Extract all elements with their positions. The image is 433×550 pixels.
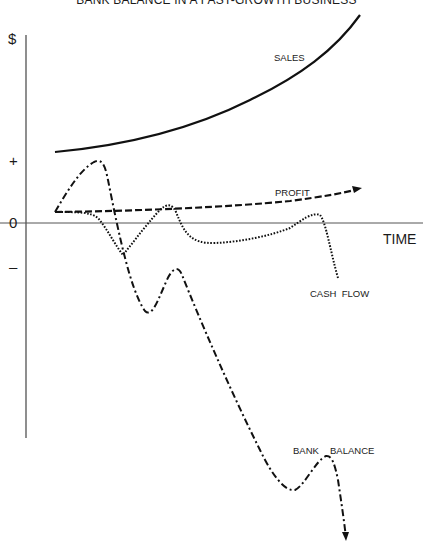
bank-label: BANK (293, 445, 319, 456)
bank-balance-line (55, 161, 346, 538)
y-tick-minus: – (9, 258, 17, 275)
profit-label: PROFIT (275, 187, 310, 198)
bank-balance-arrowhead (342, 532, 349, 541)
sales-label: SALES (274, 52, 305, 63)
cash-flow-label: CASH FLOW (310, 288, 369, 299)
balance-label: BALANCE (330, 445, 374, 456)
profit-line (55, 189, 358, 212)
y-tick-zero: 0 (9, 214, 17, 231)
y-tick-plus: + (9, 152, 18, 169)
profit-arrowhead (352, 186, 362, 193)
sales-line (55, 15, 360, 152)
chart-plot (0, 0, 433, 550)
cash-flow-line (55, 205, 338, 278)
x-axis-label: TIME (383, 231, 416, 247)
y-axis-label: $ (8, 30, 16, 47)
